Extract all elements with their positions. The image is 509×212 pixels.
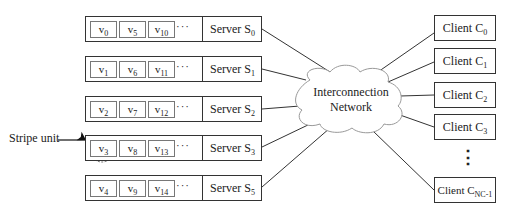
client-box-2: Client C2: [434, 82, 496, 108]
ellipsis: ···: [176, 139, 190, 151]
server-row-3: v3 v8 v13 ··· Server S3: [85, 135, 262, 161]
stripe-cell: v7: [119, 101, 146, 118]
ellipsis: ···: [176, 60, 190, 72]
stripe-cell: v3: [90, 140, 117, 157]
server-label: Server S1: [202, 57, 262, 81]
network-label: Interconnection Network: [311, 85, 391, 115]
client-box-3: Client C3: [434, 114, 496, 140]
stripe-cell: v5: [119, 21, 146, 38]
stripe-cell: v2: [90, 101, 117, 118]
stripe-cell: v13: [148, 140, 175, 157]
stripe-cell: v9: [119, 180, 146, 197]
server-label: Server S5: [202, 176, 262, 200]
network-label-line1: Interconnection: [311, 85, 391, 100]
client-box-last: Client CNC-1: [434, 177, 496, 203]
server-row-1: v1 v6 v11 ··· Server S1: [85, 56, 262, 82]
stripe-unit-label: Stripe unit: [9, 131, 59, 146]
ellipsis: ···: [176, 179, 190, 191]
server-label: Server S0: [202, 17, 262, 41]
stripe-cell: v12: [148, 101, 175, 118]
stripe-cell: v0: [90, 21, 117, 38]
server-label: Server S2: [202, 97, 262, 121]
client-box-1: Client C1: [434, 48, 496, 74]
stripe-cell: v11: [148, 61, 175, 78]
ellipsis: ···: [176, 20, 190, 32]
ellipsis: ···: [176, 100, 190, 112]
stripe-cell: v1: [90, 61, 117, 78]
server-row-0: v0 v5 v10 ··· Server S0: [85, 16, 262, 42]
client-ellipsis: ⋮: [459, 146, 477, 168]
stripe-cell: v10: [148, 21, 175, 38]
client-box-0: Client C0: [434, 15, 496, 41]
server-row-4: v4 v9 v14 ··· Server S5: [85, 175, 262, 201]
stripe-cell: v6: [119, 61, 146, 78]
stripe-cell: v14: [148, 180, 175, 197]
server-label: Server S3: [202, 136, 262, 160]
network-label-line2: Network: [311, 100, 391, 115]
stripe-cell: v4: [90, 180, 117, 197]
server-row-2: v2 v7 v12 ··· Server S2: [85, 96, 262, 122]
stripe-cell: v8: [119, 140, 146, 157]
